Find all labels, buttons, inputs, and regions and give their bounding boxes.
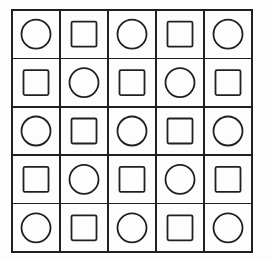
square-shape bbox=[72, 119, 97, 144]
grid-lines bbox=[12, 10, 252, 252]
square-shape bbox=[216, 167, 241, 192]
grid-cell bbox=[70, 165, 99, 194]
grid-cell bbox=[120, 167, 145, 192]
grid-cell bbox=[22, 117, 51, 146]
grid-cell bbox=[72, 22, 97, 47]
square-shape bbox=[216, 70, 241, 95]
circle-shape bbox=[70, 165, 99, 194]
grid-cell bbox=[70, 68, 99, 97]
grid-cell bbox=[216, 167, 241, 192]
square-shape bbox=[24, 70, 49, 95]
circle-shape bbox=[22, 20, 51, 49]
grid-cell bbox=[72, 215, 97, 240]
grid-cell bbox=[24, 70, 49, 95]
grid-cell bbox=[118, 117, 147, 146]
circle-shape bbox=[22, 117, 51, 146]
grid-cell bbox=[166, 68, 195, 97]
circle-shape bbox=[166, 68, 195, 97]
cell-shapes bbox=[22, 20, 243, 243]
grid-cell bbox=[120, 70, 145, 95]
circle-shape bbox=[214, 213, 243, 242]
grid-row bbox=[22, 213, 243, 242]
circle-shape bbox=[70, 68, 99, 97]
circle-shape bbox=[166, 165, 195, 194]
square-shape bbox=[72, 215, 97, 240]
grid-cell bbox=[22, 20, 51, 49]
square-shape bbox=[72, 22, 97, 47]
grid-cell bbox=[214, 20, 243, 49]
square-shape bbox=[168, 119, 193, 144]
circle-shape bbox=[118, 20, 147, 49]
grid-cell bbox=[168, 119, 193, 144]
grid-cell bbox=[24, 167, 49, 192]
grid-cell bbox=[214, 117, 243, 146]
grid-cell bbox=[118, 213, 147, 242]
grid-row bbox=[22, 117, 243, 146]
grid-cell bbox=[166, 165, 195, 194]
shape-grid-svg bbox=[0, 0, 272, 261]
shape-grid-figure bbox=[0, 0, 272, 261]
circle-shape bbox=[214, 20, 243, 49]
grid-cell bbox=[118, 20, 147, 49]
square-shape bbox=[168, 215, 193, 240]
circle-shape bbox=[118, 213, 147, 242]
grid-cell bbox=[72, 119, 97, 144]
square-shape bbox=[120, 70, 145, 95]
grid-cell bbox=[22, 213, 51, 242]
grid-row bbox=[24, 68, 241, 97]
grid-row bbox=[24, 165, 241, 194]
square-shape bbox=[24, 167, 49, 192]
circle-shape bbox=[214, 117, 243, 146]
circle-shape bbox=[22, 213, 51, 242]
grid-row bbox=[22, 20, 243, 49]
grid-cell bbox=[216, 70, 241, 95]
square-shape bbox=[168, 22, 193, 47]
grid-outer-border bbox=[12, 10, 252, 252]
circle-shape bbox=[118, 117, 147, 146]
square-shape bbox=[120, 167, 145, 192]
grid-cell bbox=[168, 22, 193, 47]
grid-cell bbox=[214, 213, 243, 242]
grid-cell bbox=[168, 215, 193, 240]
